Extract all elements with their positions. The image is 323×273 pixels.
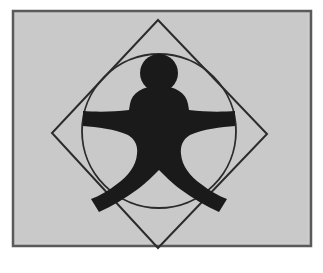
- emblem-canvas: [0, 0, 323, 273]
- emblem-graphic: [0, 0, 323, 273]
